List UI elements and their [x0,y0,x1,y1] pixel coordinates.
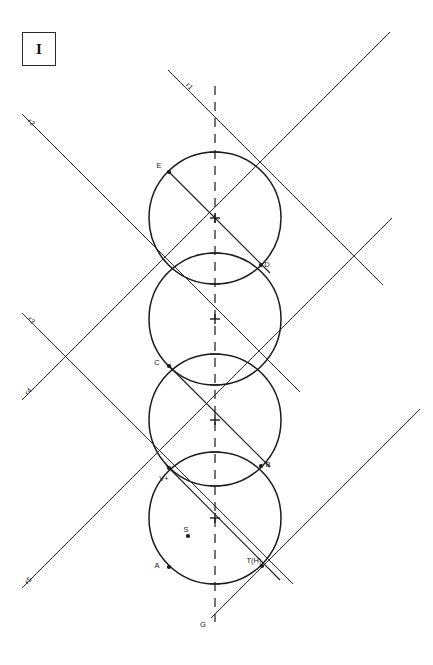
chord-E-D [169,172,270,273]
point-A-marker [167,565,171,569]
axis-bottom-label-group: G [200,620,206,629]
point-C-marker [167,364,171,368]
point-E-label: E [156,161,161,170]
rays-group [22,32,420,618]
point-S-marker [186,534,190,538]
point-A-label: A [154,561,159,570]
ray-labels-group: r1r2r3r4r5 [23,81,194,585]
point-B-label: B [265,460,270,469]
ray-label-r5: r5 [23,575,33,585]
ray-label-r2: r2 [27,117,37,127]
geometric-construction-figure: EDCBV+AT(H)S r1r2r3r4r5 G [0,0,433,665]
ray-r3 [22,313,293,584]
point-D-label: D [264,260,270,269]
ray-r2 [22,114,300,392]
ray-label-r3: r3 [27,315,37,325]
point-T-label: T(H) [247,556,262,565]
point-V-label: V+ [159,474,169,483]
point-S-label: S [183,525,188,534]
ray-label-r4: r4 [23,386,33,396]
point-D-marker [259,263,263,267]
point-V-marker [167,466,171,470]
ray-label-r1: r1 [185,81,195,91]
ray-diag-right-down [211,409,420,618]
ray-r1 [168,70,383,285]
ray-r4 [22,32,390,400]
point-B-marker [259,464,263,468]
chord-V-T [166,465,280,580]
axis-bottom-label: G [200,620,206,629]
point-C-label: C [154,358,160,367]
figure-page: I EDCBV+AT(H)S r1r2r3r4r5 G [0,0,433,665]
point-E-marker [167,170,171,174]
ray-r5 [22,218,392,588]
